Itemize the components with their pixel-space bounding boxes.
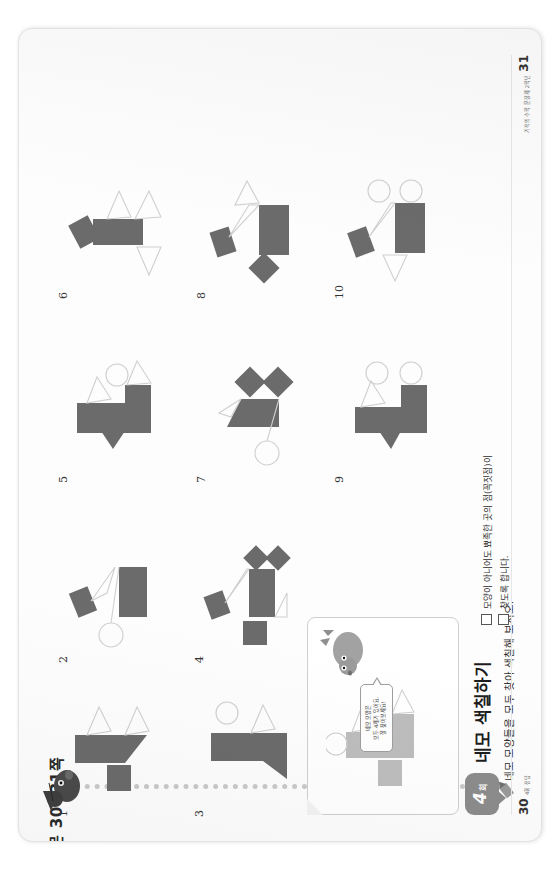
- badge-number: 4: [470, 792, 490, 804]
- figure-label: 8: [195, 292, 208, 299]
- figure-canvas: [205, 355, 311, 473]
- mouse-character: [318, 624, 370, 680]
- figure-canvas: [67, 535, 173, 653]
- bubble-line-2: 모두 4개가 있어요.: [373, 690, 381, 746]
- figure-canvas: [343, 171, 449, 289]
- figure-canvas: [343, 355, 449, 473]
- page-note-left: 4회 정답: [523, 775, 530, 795]
- footer-rule: [511, 55, 512, 815]
- scanned-page: 본문 30~31쪽 5: [0, 0, 560, 870]
- figure-label: 9: [333, 476, 346, 483]
- figure-label: 1: [57, 810, 70, 817]
- figure-canvas: [67, 355, 173, 473]
- bubble-line-3: 잘 찾아보세요!: [380, 690, 388, 746]
- checkbox-1[interactable]: [481, 614, 492, 625]
- activity-instruction: 네모 모양들을 모두 찾아 색칠해 보시오.: [501, 601, 516, 781]
- figure-canvas: [203, 535, 309, 653]
- figure-canvas: [67, 689, 173, 807]
- example-figure-panel: 네모 모양은 모두 4개가 있어요. 잘 찾아보세요!: [307, 617, 459, 815]
- checkbox-2[interactable]: [498, 614, 509, 625]
- teacher-note: 모양이 아니어도 뾰족한 곳의 점(꼭짓점)이 찾도록 합니다.: [481, 325, 515, 625]
- note-line: 찾도록 합니다.: [498, 325, 510, 625]
- workbook-sheet: 본문 30~31쪽 5: [18, 28, 542, 842]
- fold-corner-icon: [307, 799, 323, 815]
- figure-label: 2: [57, 656, 70, 663]
- rotated-sheet-wrapper: 본문 30~31쪽 5: [0, 0, 560, 870]
- figure-label: 4: [193, 656, 206, 663]
- bubble-line-1: 네모 모양은: [365, 690, 373, 746]
- note-text: 모양이 아니어도 뾰족한 곳의 점(꼭짓점)이: [483, 455, 493, 609]
- figure-canvas: [205, 171, 311, 289]
- note-text: 찾도록 합니다.: [500, 556, 510, 609]
- activity-title: 네모 색칠하기: [469, 661, 494, 763]
- activity-badge: 4 회: [465, 773, 499, 815]
- figure-label: 3: [193, 810, 206, 817]
- figure-canvas: [67, 171, 173, 289]
- figure-canvas: [203, 689, 309, 807]
- figure-label: 7: [195, 476, 208, 483]
- page-note-right: 기적의 수학 문장제 2학년: [523, 75, 530, 133]
- figure-label: 5: [57, 476, 70, 483]
- figure-label: 6: [57, 292, 70, 299]
- page-number-left: 30: [517, 798, 531, 815]
- note-line: 모양이 아니어도 뾰족한 곳의 점(꼭짓점)이: [481, 325, 493, 625]
- page-number-right: 31: [517, 55, 531, 72]
- speech-bubble: 네모 모양은 모두 4개가 있어요. 잘 찾아보세요!: [360, 684, 393, 752]
- badge-unit: 회: [477, 784, 488, 791]
